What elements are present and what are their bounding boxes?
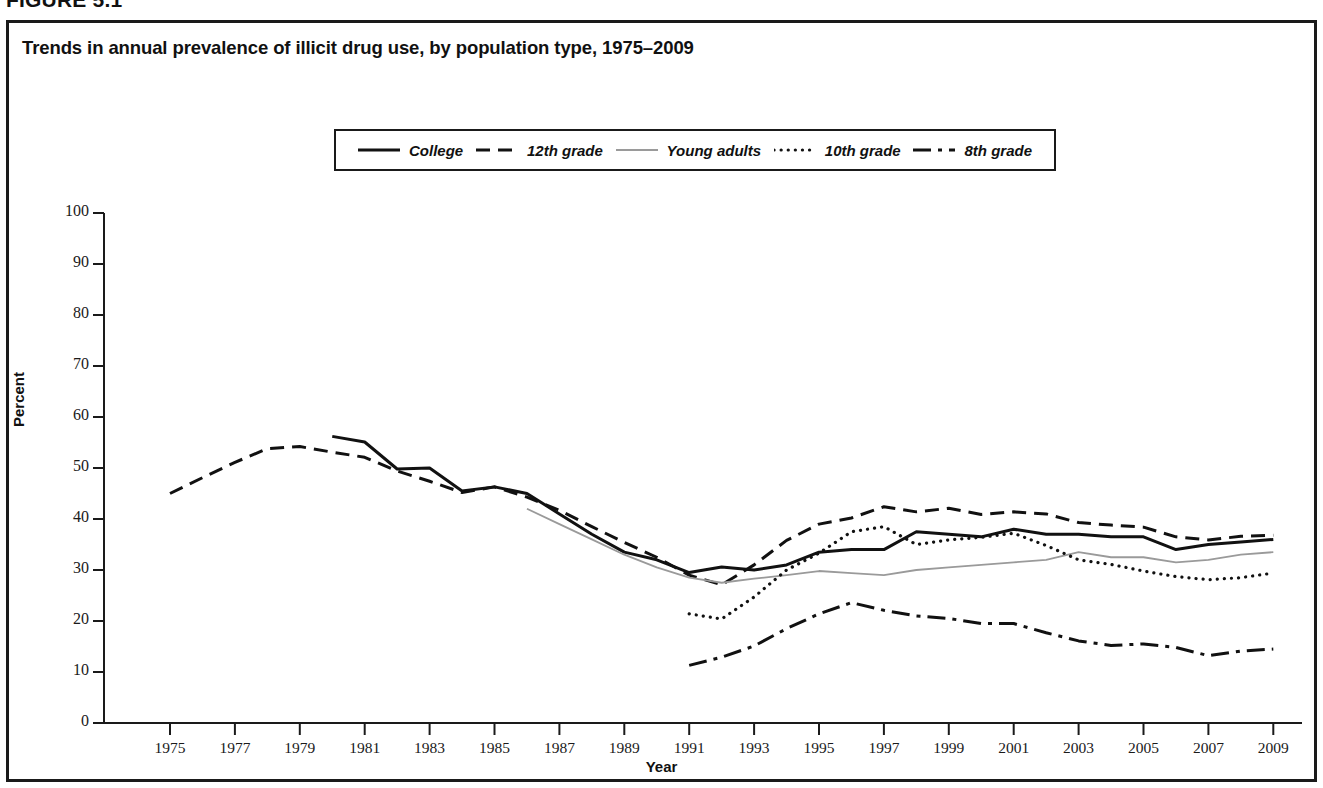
x-tick-label: 1989 xyxy=(594,739,654,757)
x-tick-label: 1985 xyxy=(465,739,525,757)
x-tick-label: 2003 xyxy=(1049,739,1109,757)
figure-page: FIGURE 5.1 Trends in annual prevalence o… xyxy=(0,0,1323,788)
x-tick-label: 1991 xyxy=(659,739,719,757)
series-line-12th-grade xyxy=(170,447,1273,585)
x-tick-label: 1975 xyxy=(140,739,200,757)
y-tick-label: 50 xyxy=(45,457,89,475)
x-tick-label: 1977 xyxy=(205,739,265,757)
x-tick-label: 1999 xyxy=(919,739,979,757)
x-tick-label: 1981 xyxy=(335,739,395,757)
series-line-8th-grade xyxy=(689,603,1273,666)
x-tick-label: 1997 xyxy=(854,739,914,757)
y-tick-label: 60 xyxy=(45,406,89,424)
x-tick-label: 2007 xyxy=(1178,739,1238,757)
y-tick-label: 70 xyxy=(45,355,89,373)
y-tick-label: 20 xyxy=(45,610,89,628)
y-tick-label: 10 xyxy=(45,661,89,679)
y-tick-label: 40 xyxy=(45,508,89,526)
x-tick-label: 1995 xyxy=(789,739,849,757)
x-tick-label: 1993 xyxy=(724,739,784,757)
x-tick-label: 2001 xyxy=(984,739,1044,757)
y-tick-label: 80 xyxy=(45,304,89,322)
x-tick-label: 2005 xyxy=(1114,739,1174,757)
y-tick-label: 30 xyxy=(45,559,89,577)
y-axis-title: Percent xyxy=(10,372,27,427)
series-line-college xyxy=(332,436,1273,572)
series-line-10th-grade xyxy=(689,527,1273,619)
y-tick-label: 0 xyxy=(45,712,89,730)
series-line-young-adults xyxy=(527,509,1273,583)
y-tick-label: 90 xyxy=(45,253,89,271)
y-tick-label: 100 xyxy=(45,202,89,220)
x-axis-title: Year xyxy=(0,758,1323,775)
x-tick-label: 2009 xyxy=(1243,739,1303,757)
x-tick-label: 1987 xyxy=(529,739,589,757)
x-tick-label: 1983 xyxy=(400,739,460,757)
chart-plot-area: 0102030405060708090100197519771979198119… xyxy=(0,0,1323,788)
x-tick-label: 1979 xyxy=(270,739,330,757)
line-chart-svg xyxy=(0,0,1323,788)
